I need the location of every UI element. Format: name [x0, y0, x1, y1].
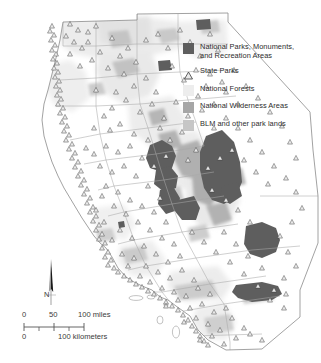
north-arrow-label: N	[44, 290, 49, 299]
legend-item-national-wilderness: National Wilderness Areas	[183, 101, 319, 113]
national-wilderness-swatch	[183, 102, 194, 113]
legend-item-state-parks: State Parks	[183, 66, 319, 78]
scale-miles-start: 0	[22, 310, 26, 319]
national-forests-swatch	[183, 85, 194, 96]
legend-label-blm-lands: BLM and other park lands	[200, 119, 286, 128]
blm-lands-swatch	[183, 120, 194, 131]
legend-item-national-forests: National Forests	[183, 84, 319, 96]
map-figure: National Parks, Monuments, and Recreatio…	[0, 0, 321, 363]
national-parks-swatch	[183, 43, 194, 54]
state-parks-triangle-icon	[183, 67, 194, 78]
legend-label-state-parks: State Parks	[200, 66, 239, 75]
legend-label-national-wilderness: National Wilderness Areas	[200, 101, 288, 110]
scale-miles-end: 100 miles	[78, 310, 111, 319]
legend-label-national-forests: National Forests	[200, 84, 255, 93]
scale-miles-mid: 50	[49, 310, 57, 319]
legend: National Parks, Monuments, and Recreatio…	[183, 42, 319, 136]
legend-item-blm-lands: BLM and other park lands	[183, 119, 319, 131]
legend-label-national-parks: National Parks, Monuments, and Recreatio…	[200, 42, 294, 61]
scale-bar: 0 50 100 miles 0 100 kilometers	[22, 310, 152, 350]
scale-km-end: 100 kilometers	[58, 332, 107, 341]
scale-km-start: 0	[22, 332, 26, 341]
legend-item-national-parks: National Parks, Monuments, and Recreatio…	[183, 42, 319, 61]
